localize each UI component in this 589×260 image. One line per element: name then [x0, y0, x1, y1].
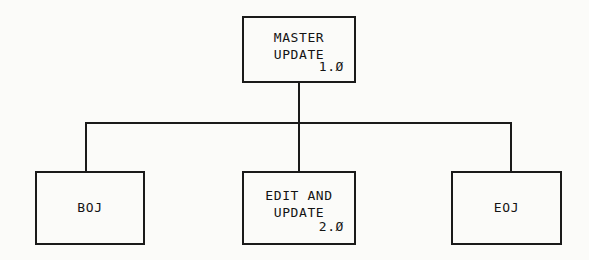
connector-drop-boj — [85, 122, 87, 172]
connector-drop-eoj — [510, 122, 512, 172]
node-master-update[interactable]: MASTER UPDATE 1.Ø — [242, 16, 356, 83]
node-eoj[interactable]: EOJ — [451, 171, 562, 245]
node-edit-and-update[interactable]: EDIT AND UPDATE 2.Ø — [242, 171, 356, 245]
node-boj-label: BOJ — [37, 199, 143, 216]
node-eoj-label: EOJ — [453, 199, 560, 216]
connector-master-trunk — [298, 83, 300, 172]
node-edit-and-update-number: 2.Ø — [319, 218, 344, 235]
connector-horizontal-bus — [85, 122, 512, 124]
node-boj[interactable]: BOJ — [35, 171, 145, 245]
structure-chart-canvas: MASTER UPDATE 1.Ø BOJ EDIT AND UPDATE 2.… — [0, 0, 589, 260]
node-master-update-number: 1.Ø — [319, 58, 344, 75]
node-edit-and-update-label: EDIT AND UPDATE — [244, 187, 354, 221]
